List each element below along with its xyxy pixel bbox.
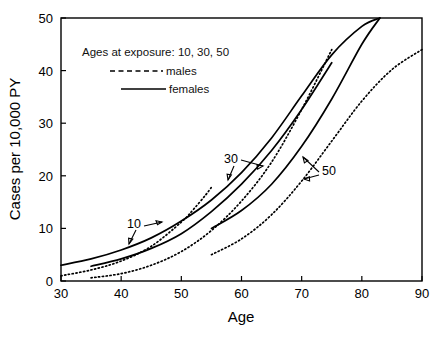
y-tick-label: 50 xyxy=(39,11,53,26)
chart-canvas: 30405060708090 01020304050 Age Cases per… xyxy=(0,0,442,338)
series-curve-females-age-50 xyxy=(211,18,379,228)
series-curve-males-age-10 xyxy=(61,187,211,275)
y-axis-ticks: 01020304050 xyxy=(39,11,66,289)
y-tick-label: 10 xyxy=(39,221,53,236)
annotation-30-label: 30 xyxy=(224,152,238,166)
series-curve-males-age-30 xyxy=(91,50,332,278)
chart-figure: 30405060708090 01020304050 Age Cases per… xyxy=(0,0,442,338)
annotation-50-label: 50 xyxy=(322,164,336,178)
x-tick-label: 50 xyxy=(174,286,188,301)
y-tick-label: 30 xyxy=(39,116,53,131)
y-tick-label: 20 xyxy=(39,169,53,184)
legend-title: Ages at exposure: 10, 30, 50 xyxy=(82,46,229,58)
series-curve-females-age-30 xyxy=(91,63,332,267)
x-tick-label: 90 xyxy=(415,286,429,301)
x-axis-title: Age xyxy=(228,308,255,325)
x-tick-label: 80 xyxy=(355,286,369,301)
x-tick-label: 30 xyxy=(54,286,68,301)
x-tick-label: 60 xyxy=(234,286,248,301)
x-tick-label: 70 xyxy=(294,286,308,301)
y-tick-label: 0 xyxy=(46,274,53,289)
y-tick-label: 40 xyxy=(39,64,53,79)
legend-label-females: females xyxy=(169,83,210,95)
chart-legend: Ages at exposure: 10, 30, 50 males femal… xyxy=(82,46,229,95)
legend-label-males: males xyxy=(166,65,197,77)
annotation-10: 10 xyxy=(127,217,162,244)
x-tick-label: 40 xyxy=(114,286,128,301)
y-axis-title: Cases per 10,000 PY xyxy=(6,78,23,221)
annotation-10-label: 10 xyxy=(127,217,141,231)
annotation-50: 50 xyxy=(303,157,336,181)
x-axis-ticks: 30405060708090 xyxy=(54,276,429,301)
